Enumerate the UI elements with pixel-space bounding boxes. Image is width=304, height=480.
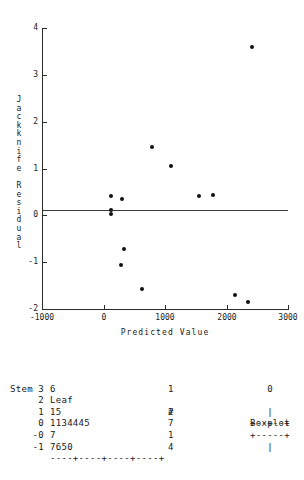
stemleaf-stem-value: 3 <box>10 384 44 396</box>
stemleaf-row: 2 <box>0 395 304 407</box>
data-point <box>120 197 124 201</box>
stemleaf-row: 1152| <box>0 407 304 419</box>
x-tick-label: -1000 <box>20 313 64 322</box>
data-point <box>119 263 123 267</box>
data-point <box>122 247 126 251</box>
y-tick-mark <box>43 215 47 216</box>
data-point <box>140 287 144 291</box>
stemleaf-rows: 361021152|011344457+--+--+-071+-----+-17… <box>0 384 304 454</box>
y-tick-mark <box>43 28 47 29</box>
y-tick-mark <box>43 75 47 76</box>
y-tick-label: 4 <box>0 24 38 32</box>
stemleaf-boxplot-value: +--+--+ <box>248 418 292 430</box>
y-tick-label: -2 <box>0 305 38 313</box>
stemleaf-count-value: 2 <box>168 407 174 419</box>
stemleaf-leaf-value: 7650 <box>50 442 73 454</box>
y-tick-label: 1 <box>0 165 38 173</box>
stemleaf-row: 3610 <box>0 384 304 396</box>
y-tick-mark <box>43 309 47 310</box>
x-tick-mark <box>42 305 43 310</box>
y-axis-title-char: l <box>14 242 24 251</box>
stemleaf-row: -176504| <box>0 442 304 454</box>
data-point <box>169 164 173 168</box>
stemleaf-leaf-value: 7 <box>50 430 56 442</box>
jackknife-residual-scatterplot: Jackknife Residual -2-101234 -1000010002… <box>0 0 304 360</box>
stemleaf-boxplot-value: | <box>248 407 292 419</box>
y-tick-label: -1 <box>0 258 38 266</box>
data-point <box>197 194 201 198</box>
data-point <box>246 300 250 304</box>
x-tick-label: 0 <box>82 313 126 322</box>
x-tick-label: 1000 <box>143 313 187 322</box>
stemleaf-leaf-value: 15 <box>50 407 61 419</box>
stemleaf-stem-value: 0 <box>10 418 44 430</box>
stem-and-leaf-boxplot-panel: Stem Leaf # Boxplot 361021152|011344457+… <box>0 372 304 480</box>
x-tick-mark <box>165 305 166 310</box>
stemleaf-header-row: Stem Leaf # Boxplot <box>0 372 304 384</box>
y-tick-mark <box>43 262 47 263</box>
stemleaf-count-value: 1 <box>168 384 174 396</box>
stemleaf-row: 011344457+--+--+ <box>0 418 304 430</box>
stemleaf-boxplot-value: 0 <box>248 384 292 396</box>
data-point <box>150 145 154 149</box>
stemleaf-axis-line: ----+----+----+----+ <box>50 453 164 465</box>
x-tick-mark <box>227 305 228 310</box>
y-tick-label: 2 <box>0 118 38 126</box>
stemleaf-stem-value: -0 <box>10 430 44 442</box>
data-point <box>109 194 113 198</box>
x-tick-label: 3000 <box>266 313 304 322</box>
y-tick-mark <box>43 122 47 123</box>
data-point <box>233 293 237 297</box>
stemleaf-count-value: 1 <box>168 430 174 442</box>
y-tick-mark <box>43 169 47 170</box>
x-tick-mark <box>288 305 289 310</box>
stemleaf-count-value: 4 <box>168 442 174 454</box>
stemleaf-stem-value: -1 <box>10 442 44 454</box>
stemleaf-count-value: 7 <box>168 418 174 430</box>
stemleaf-stem-value: 1 <box>10 407 44 419</box>
stemleaf-row: -071+-----+ <box>0 430 304 442</box>
stemleaf-boxplot-value: +-----+ <box>248 430 292 442</box>
stemleaf-leaf-value: 6 <box>50 384 56 396</box>
data-point <box>109 212 113 216</box>
y-tick-label: 3 <box>0 71 38 79</box>
x-tick-mark <box>104 305 105 310</box>
data-point <box>211 193 215 197</box>
stemleaf-boxplot-value: | <box>248 442 292 454</box>
stemleaf-leaf-value: 1134445 <box>50 418 90 430</box>
zero-reference-line <box>42 210 288 211</box>
data-point <box>250 45 254 49</box>
x-tick-label: 2000 <box>205 313 249 322</box>
y-tick-label: 0 <box>0 211 38 219</box>
x-axis-title: Predicted Value <box>42 328 288 337</box>
stemleaf-stem-value: 2 <box>10 395 44 407</box>
